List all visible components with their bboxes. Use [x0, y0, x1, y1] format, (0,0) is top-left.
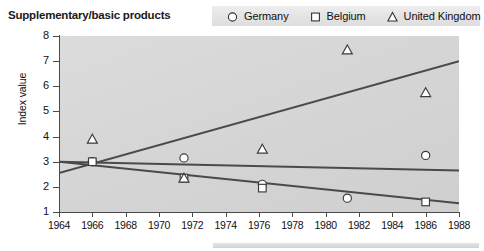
x-axis-tick [326, 212, 327, 217]
x-axis-tick [92, 212, 93, 217]
bottom-decorative-band [213, 243, 479, 248]
y-axis-tick [53, 187, 59, 188]
square-marker-icon [309, 10, 322, 23]
y-axis-tick-label: 6 [0, 79, 49, 91]
y-axis-tick [53, 36, 59, 37]
x-axis-tick [259, 212, 260, 217]
legend-item-united-kingdom: United Kingdom [386, 10, 481, 23]
data-markers [87, 45, 430, 206]
y-axis-tick-label: 4 [0, 130, 49, 142]
plot-area [59, 36, 459, 212]
y-axis-tick [53, 86, 59, 87]
data-point-united-kingdom [421, 88, 431, 97]
data-point-belgium [259, 184, 267, 192]
legend-label-germany: Germany [244, 10, 289, 22]
y-axis-tick-label: 1 [0, 205, 49, 217]
data-point-belgium [422, 198, 430, 206]
chart-legend: Germany Belgium United Kingdom [212, 6, 480, 26]
y-axis-line [59, 35, 60, 213]
chart-container: Supplementary/basic products Germany Bel… [0, 0, 484, 251]
x-axis-tick [126, 212, 127, 217]
legend-label-belgium: Belgium [327, 10, 366, 22]
y-axis-tick-label: 5 [0, 104, 49, 116]
x-axis-tick [292, 212, 293, 217]
x-axis-tick-label: 1988 [437, 219, 481, 231]
x-axis-tick [459, 212, 460, 217]
chart-title: Supplementary/basic products [8, 9, 170, 21]
y-axis-tick-label: 8 [0, 29, 49, 41]
plot-svg [59, 36, 459, 212]
circle-marker-icon [226, 10, 239, 23]
data-point-united-kingdom [342, 45, 352, 54]
x-axis-tick [59, 212, 60, 217]
legend-item-belgium: Belgium [309, 10, 366, 23]
triangle-marker-icon [386, 10, 399, 23]
legend-item-germany: Germany [226, 10, 289, 23]
x-axis-tick [359, 212, 360, 217]
y-axis-tick-label: 2 [0, 180, 49, 192]
data-point-germany [343, 194, 351, 202]
y-axis-tick-label: 7 [0, 54, 49, 66]
x-axis-tick [392, 212, 393, 217]
x-axis-tick [226, 212, 227, 217]
trend-line-united-kingdom [59, 61, 459, 173]
legend-label-united-kingdom: United Kingdom [404, 10, 481, 22]
x-axis-tick [159, 212, 160, 217]
y-axis-tick [53, 162, 59, 163]
x-axis-tick [426, 212, 427, 217]
data-point-belgium [89, 158, 97, 166]
trend-line-germany [59, 162, 459, 171]
data-point-germany [422, 151, 430, 159]
data-point-united-kingdom [87, 134, 97, 143]
y-axis-tick-label: 3 [0, 155, 49, 167]
y-axis-tick [53, 111, 59, 112]
data-point-united-kingdom [257, 144, 267, 153]
x-axis-tick [192, 212, 193, 217]
y-axis-tick [53, 137, 59, 138]
y-axis-tick [53, 61, 59, 62]
data-point-germany [180, 154, 188, 162]
